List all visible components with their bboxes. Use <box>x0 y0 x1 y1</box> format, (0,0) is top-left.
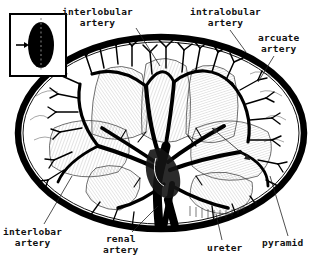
label-interlobular-artery: interlobular artery <box>62 7 133 28</box>
label-arcuate-artery: arcuate artery <box>258 33 299 54</box>
label-intralobular-artery: intralobular artery <box>190 7 261 28</box>
label-pyramid: pyramid <box>262 238 303 249</box>
label-ureter: ureter <box>207 243 243 254</box>
orientation-inset <box>10 14 66 76</box>
label-renal-artery: renal artery <box>103 234 139 255</box>
label-interlobar-artery: interlobar artery <box>3 227 62 248</box>
pyramid-right <box>191 121 272 180</box>
